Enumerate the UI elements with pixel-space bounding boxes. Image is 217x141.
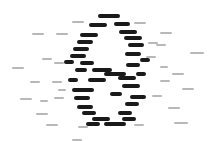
- graph-node-label: [168, 107, 180, 109]
- graph-node-label: [122, 117, 136, 121]
- graph-node-label: [80, 61, 94, 65]
- graph-node-label: [182, 88, 194, 90]
- graph-node-label: [160, 66, 168, 68]
- graph-node-label: [77, 105, 93, 109]
- graph-node-label: [160, 80, 170, 82]
- graph-node-label: [174, 122, 188, 124]
- graph-node-label: [72, 21, 84, 23]
- graph-node-label: [130, 95, 146, 99]
- graph-node-label: [104, 122, 126, 126]
- graph-node-label: [92, 117, 110, 121]
- graph-node-label: [42, 58, 52, 60]
- graph-node-label: [74, 96, 90, 100]
- graph-node-label: [160, 32, 172, 34]
- graph-node-label: [118, 76, 136, 80]
- graph-node-label: [80, 33, 98, 37]
- graph-node-label: [20, 98, 32, 100]
- graph-node-label: [172, 73, 184, 75]
- graph-node-label: [119, 30, 137, 34]
- graph-node-label: [134, 124, 144, 126]
- graph-node-label: [40, 100, 48, 102]
- graph-node-label: [88, 78, 106, 82]
- graph-node-label: [56, 33, 68, 35]
- graph-node-label: [136, 72, 146, 76]
- graph-node-label: [128, 43, 144, 47]
- graph-node-label: [72, 139, 82, 141]
- graph-node-label: [86, 122, 100, 126]
- graph-node-label: [70, 54, 86, 58]
- graph-node-label: [124, 36, 142, 40]
- graph-node-label: [140, 58, 150, 62]
- graph-node-label: [110, 92, 122, 96]
- graph-node-label: [36, 113, 48, 115]
- graph-node-label: [46, 124, 58, 126]
- graph-node-label: [146, 56, 156, 58]
- graph-node-label: [89, 23, 107, 27]
- graph-node-label: [84, 88, 94, 92]
- graph-node-label: [134, 22, 146, 24]
- graph-node-label: [77, 40, 93, 44]
- graph-node-label: [78, 126, 88, 128]
- graph-node-label: [82, 111, 96, 115]
- graph-node-label: [152, 95, 162, 97]
- graph-node-label: [64, 60, 74, 64]
- graph-node-label: [190, 52, 204, 54]
- graph-node-label: [98, 14, 120, 18]
- graph-node-label: [75, 68, 87, 72]
- graph-node-label: [32, 33, 44, 35]
- graph-node-label: [54, 62, 64, 64]
- graph-node-label: [12, 67, 24, 69]
- graph-node-label: [156, 44, 166, 46]
- graph-node-label: [52, 81, 62, 83]
- graph-node-label: [73, 47, 89, 51]
- network-graph: [0, 0, 217, 141]
- graph-node-label: [54, 97, 64, 99]
- graph-node-label: [30, 81, 40, 83]
- graph-node-label: [125, 52, 141, 56]
- graph-node-label: [122, 84, 140, 88]
- graph-node-label: [68, 78, 78, 82]
- graph-node-label: [126, 63, 140, 67]
- graph-node-label: [114, 22, 130, 26]
- graph-node-label: [58, 89, 66, 91]
- graph-node-label: [118, 111, 132, 115]
- graph-node-label: [125, 102, 139, 106]
